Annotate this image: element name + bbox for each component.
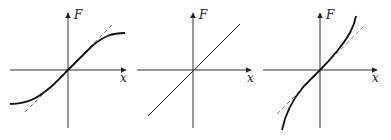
y-axis-label: F bbox=[73, 8, 83, 22]
panel-linear: F x bbox=[137, 8, 254, 128]
panel-softening: F x bbox=[10, 8, 127, 128]
panel-hardening: F x bbox=[263, 8, 379, 130]
hardening-curve bbox=[282, 16, 356, 130]
x-axis-label: x bbox=[372, 71, 379, 85]
x-axis-label: x bbox=[120, 71, 127, 85]
x-axis-label: x bbox=[247, 71, 254, 85]
y-axis-label: F bbox=[198, 8, 208, 22]
y-axis-label: F bbox=[325, 8, 335, 22]
force-displacement-figure: F x F x F x bbox=[0, 0, 391, 140]
